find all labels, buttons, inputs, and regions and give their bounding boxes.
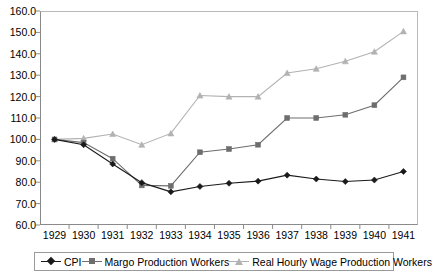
- legend-label: Real Hourly Wage Production Workers: [252, 256, 432, 268]
- data-point: [400, 169, 406, 175]
- data-point: [110, 161, 116, 167]
- legend-item-real-hourly-wage-production-workers[interactable]: Real Hourly Wage Production Workers: [229, 256, 432, 268]
- y-axis-tick-label: 90.0: [0, 156, 36, 166]
- x-axis-labels: 1929193019311932193319341935193619371938…: [40, 229, 418, 245]
- data-point: [110, 156, 115, 161]
- y-axis-tick-label: 80.0: [0, 177, 36, 187]
- y-axis-tick-label: 130.0: [0, 70, 36, 80]
- legend-marker-triangle-icon: [229, 257, 249, 266]
- data-point: [314, 116, 319, 121]
- legend-marker-diamond-icon: [41, 257, 61, 266]
- legend-item-cpi[interactable]: CPI: [41, 256, 82, 268]
- legend-label: CPI: [64, 256, 82, 268]
- data-point: [285, 116, 290, 121]
- y-axis-tick-label: 100.0: [0, 134, 36, 144]
- x-axis-tick-label: 1941: [383, 229, 423, 241]
- data-point: [255, 178, 261, 184]
- y-axis-tick-label: 150.0: [0, 27, 36, 37]
- data-point: [343, 112, 348, 117]
- series-margo-production-workers: [52, 75, 406, 188]
- chart-legend: CPI Margo Production Workers Real Hourly…: [34, 252, 394, 271]
- data-point: [226, 180, 232, 186]
- data-point: [198, 150, 203, 155]
- data-point: [342, 179, 348, 185]
- data-point: [313, 176, 319, 182]
- data-point: [256, 142, 261, 147]
- legend-item-margo-production-workers[interactable]: Margo Production Workers: [82, 256, 230, 268]
- series-real-hourly-wage-production-workers: [52, 28, 407, 147]
- data-point: [372, 103, 377, 108]
- y-axis-tick-label: 60.0: [0, 220, 36, 230]
- y-axis-tick-label: 160.0: [0, 6, 36, 16]
- data-point: [227, 147, 232, 152]
- data-point: [168, 189, 174, 195]
- y-axis-tick-label: 140.0: [0, 49, 36, 59]
- y-axis-labels: 160.0150.0140.0130.0120.0110.0100.090.08…: [0, 0, 38, 274]
- data-point: [168, 183, 173, 188]
- legend-label: Margo Production Workers: [105, 256, 230, 268]
- data-point: [371, 177, 377, 183]
- data-point: [371, 49, 377, 55]
- series-cpi: [52, 136, 407, 194]
- y-axis-tick-label: 120.0: [0, 92, 36, 102]
- y-axis-tick-label: 70.0: [0, 199, 36, 209]
- y-axis-tick-label: 110.0: [0, 113, 36, 123]
- legend-marker-square-icon: [82, 257, 102, 266]
- data-point: [401, 75, 406, 80]
- data-point: [400, 28, 406, 34]
- data-point: [197, 183, 203, 189]
- data-point: [284, 172, 290, 178]
